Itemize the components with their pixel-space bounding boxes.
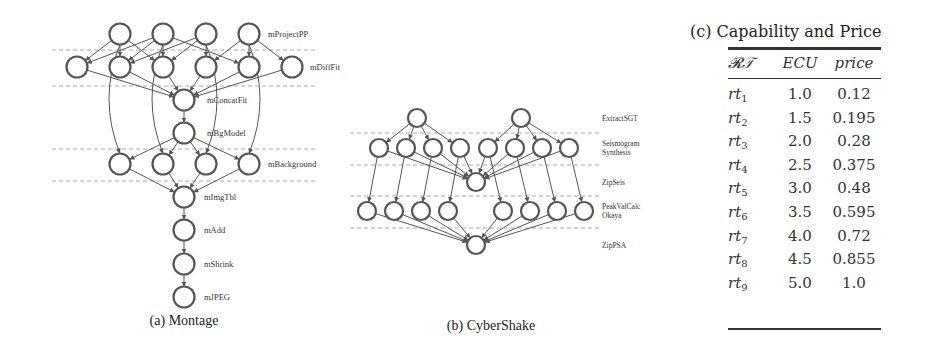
level-label-mimgtbl: mImgTbl: [204, 192, 237, 202]
task-node: [512, 109, 530, 127]
task-node: [451, 139, 469, 157]
task-node: [239, 154, 260, 175]
level-label-zipseis: ZipSeis: [602, 178, 625, 187]
cell-rt: rt3: [728, 132, 748, 151]
level-label-mshrink: mShrink: [204, 259, 234, 269]
task-node: [239, 24, 260, 45]
task-node: [110, 24, 131, 45]
table-bottom-rule: [728, 328, 881, 330]
level-label-mconcatfit: mConcatFit: [207, 95, 248, 105]
task-node: [358, 202, 376, 220]
table-row: rt11.00.12: [728, 85, 880, 107]
edge-arrow: [396, 157, 405, 202]
edge-arrow: [450, 157, 459, 202]
task-node: [533, 139, 551, 157]
table-title: (c) Capability and Price: [690, 22, 881, 41]
cell-rt: rt9: [728, 274, 748, 293]
task-node: [282, 57, 303, 78]
cell-rt: rt7: [728, 227, 748, 246]
task-node: [110, 57, 131, 78]
task-node: [397, 139, 415, 157]
cell-ecu: 2.5: [780, 156, 820, 174]
edge-arrow: [190, 142, 200, 156]
cell-ecu: 5.0: [780, 274, 820, 292]
task-node: [370, 139, 388, 157]
edge-arrow: [190, 173, 200, 189]
cell-rt: rt4: [728, 156, 748, 175]
cell-ecu: 1.5: [780, 109, 820, 127]
task-node: [560, 139, 578, 157]
edge-arrow: [169, 76, 179, 91]
task-node: [174, 287, 195, 308]
cell-ecu: 1.0: [780, 85, 820, 103]
level-label-extractsgt: ExtractSGT: [602, 114, 638, 123]
level-label-peakvalcalc: PeakValCalc: [602, 202, 641, 211]
table-row: rt21.50.195: [728, 109, 880, 131]
cell-ecu: 3.0: [780, 179, 820, 197]
level-label-mdifffit: mDiffFit: [310, 62, 340, 72]
cell-rt: rt1: [728, 85, 748, 104]
task-node: [439, 202, 457, 220]
cell-price: 0.195: [826, 109, 882, 127]
edge-arrow: [544, 157, 555, 202]
task-node: [153, 154, 174, 175]
task-node: [174, 90, 195, 111]
montage-caption: (a) Montage: [120, 313, 248, 329]
task-node: [521, 202, 539, 220]
header-rt: 𝓡𝒯: [728, 54, 753, 72]
task-node: [174, 187, 195, 208]
edge-arrow: [169, 142, 178, 156]
table-row: rt63.50.595: [728, 203, 880, 225]
table-row: rt84.50.855: [728, 250, 880, 272]
level-label-mbackground: mBackground: [268, 159, 317, 169]
cell-ecu: 4.5: [780, 250, 820, 268]
table-top-rule: [728, 47, 881, 50]
task-node: [424, 139, 442, 157]
cybershake-workflow-diagram: ExtractSGTSeismogramSynthesisZipSeisPeak…: [340, 0, 660, 345]
cell-rt: rt8: [728, 250, 748, 269]
table-row: rt53.00.48: [728, 179, 880, 201]
edge-arrow: [490, 157, 501, 202]
task-node: [506, 139, 524, 157]
cell-price: 1.0: [826, 274, 882, 292]
task-node: [467, 236, 485, 254]
table-row: rt74.00.72: [728, 227, 880, 249]
task-node: [412, 202, 430, 220]
cell-ecu: 3.5: [780, 203, 820, 221]
edge-arrow: [369, 157, 378, 202]
cell-rt: rt5: [728, 179, 748, 198]
table-header-row: 𝓡𝒯 ECU price: [728, 54, 880, 76]
task-node: [467, 173, 485, 191]
level-label-madd: mAdd: [204, 225, 226, 235]
table-mid-rule: [728, 78, 881, 79]
header-ecu: ECU: [780, 54, 820, 72]
cell-rt: rt2: [728, 109, 748, 128]
cell-price: 0.595: [826, 203, 882, 221]
task-node: [110, 154, 131, 175]
cell-ecu: 4.0: [780, 227, 820, 245]
level-label-mprojectpp: mProjectPP: [268, 29, 308, 39]
task-node: [67, 57, 88, 78]
cell-price: 0.375: [826, 156, 882, 174]
task-node: [174, 123, 195, 144]
task-node: [153, 57, 174, 78]
task-node: [479, 139, 497, 157]
cell-price: 0.72: [826, 227, 882, 245]
task-node: [239, 57, 260, 78]
level-label-peakvalcalc-line2: Okaya: [602, 211, 622, 220]
table-row: rt42.50.375: [728, 156, 880, 178]
level-label-zippsa: ZipPSA: [602, 241, 627, 250]
montage-workflow-diagram: mProjectPPmDiffFitmConcatFitmBgModelmBac…: [0, 0, 340, 345]
task-node: [196, 57, 217, 78]
level-label-mbgmodel: mBgModel: [207, 128, 246, 138]
task-node: [174, 220, 195, 241]
cybershake-caption: (b) CyberShake: [426, 318, 556, 334]
header-price: price: [826, 54, 882, 72]
table-row: rt32.00.28: [728, 132, 880, 154]
cybershake-panel: ExtractSGTSeismogramSynthesisZipSeisPeak…: [340, 0, 660, 345]
task-node: [196, 154, 217, 175]
cell-rt: rt6: [728, 203, 748, 222]
edge-arrow: [169, 173, 179, 188]
cell-price: 0.48: [826, 179, 882, 197]
edge-arrow: [190, 76, 200, 92]
